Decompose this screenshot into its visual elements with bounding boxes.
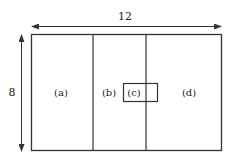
floor-plan-diagram: 12 8 (a) (b) (c) (d): [0, 0, 230, 160]
region-d-label: (d): [182, 87, 196, 98]
region-c-label: (c): [127, 87, 141, 98]
height-label: 8: [9, 86, 16, 99]
width-label: 12: [118, 10, 132, 23]
region-a-label: (a): [54, 87, 68, 98]
region-b-label: (b): [102, 87, 116, 98]
